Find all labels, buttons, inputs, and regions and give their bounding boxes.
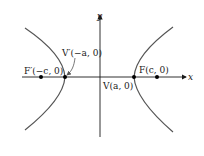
left-focus-label: F′(−c, 0) (24, 66, 63, 76)
left-branch-curve (25, 28, 65, 130)
hyperbola-diagram: y x F′(−c, 0) V′(−a, 0) V(a, 0) F(c, 0) (0, 0, 204, 156)
left-vertex-label: V′(−a, 0) (61, 48, 102, 58)
x-axis-label: x (188, 72, 193, 82)
right-vertex-point (132, 75, 136, 79)
right-vertex-label: V(a, 0) (102, 81, 133, 91)
right-focus-point (155, 75, 159, 79)
left-vertex-point (63, 75, 67, 79)
right-branch-curve (134, 27, 173, 132)
right-focus-label: F(c, 0) (139, 65, 169, 75)
y-axis-label: y (96, 11, 103, 21)
vertex-pointer-arrow (67, 58, 75, 75)
